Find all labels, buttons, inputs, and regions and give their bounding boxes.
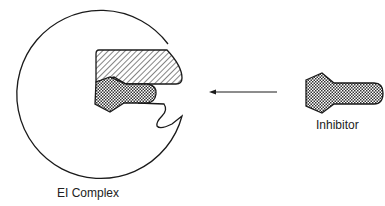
arrow-left <box>209 90 277 95</box>
diagram-canvas <box>0 0 385 206</box>
free-inhibitor <box>306 73 383 113</box>
inhibitor-label: Inhibitor <box>316 118 359 132</box>
ei-complex-label: EI Complex <box>57 186 119 200</box>
